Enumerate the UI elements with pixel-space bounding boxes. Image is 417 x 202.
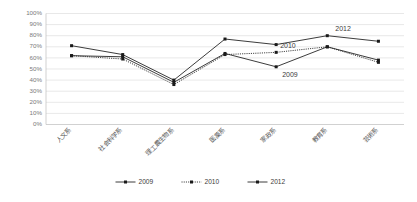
data-point-marker [121, 58, 124, 61]
x-axis-category-label: 人文系 [54, 126, 73, 145]
data-point-marker [70, 54, 73, 57]
data-point-marker [121, 53, 124, 56]
legend-label: 2009 [139, 178, 154, 185]
legend-label: 2010 [205, 178, 220, 185]
x-axis-category-labels: 人文系社会科学系理工農生物系医薬系家政系教育系芸術系 [54, 126, 380, 158]
y-axis-tick-label: 20% [30, 98, 43, 105]
data-point-marker [172, 83, 175, 86]
y-axis-tick-labels: 100%90%80%70%60%50%40%30%20%10%0% [26, 9, 42, 127]
data-point-marker [275, 65, 278, 68]
legend-item-2010: 2010 [182, 178, 220, 185]
series-lines [72, 36, 379, 85]
legend-item-2009: 2009 [116, 178, 154, 185]
data-point-marker [377, 61, 380, 64]
y-axis-tick-label: 100% [26, 9, 42, 16]
y-axis-tick-label: 50% [30, 65, 43, 72]
data-point-marker [377, 40, 380, 43]
y-axis-tick-label: 60% [30, 54, 43, 61]
chart-canvas: 100%90%80%70%60%50%40%30%20%10%0% 人文系社会科… [0, 0, 417, 202]
legend-marker-swatch [256, 181, 259, 184]
legend-marker-swatch [124, 181, 127, 184]
series-annotation-2012: 2012 [335, 25, 351, 32]
y-axis-tick-label: 10% [30, 109, 43, 116]
data-point-marker [275, 43, 278, 46]
y-axis-tick-label: 40% [30, 76, 43, 83]
y-axis-tick-label: 70% [30, 42, 43, 49]
legend-marker-swatch [190, 181, 193, 184]
x-axis-category-label: 医薬系 [207, 126, 226, 145]
y-axis-tick-label: 90% [30, 20, 43, 27]
data-point-marker [326, 45, 329, 48]
series-annotation-2010: 2010 [280, 42, 296, 49]
y-axis-tick-label: 80% [30, 31, 43, 38]
y-axis-tick-label: 0% [33, 120, 42, 127]
x-axis-category-label: 理工農生物系 [143, 126, 175, 158]
x-axis-category-label: 社会科学系 [97, 126, 125, 154]
data-point-marker [326, 34, 329, 37]
x-axis-category-label: 芸術系 [361, 126, 380, 145]
x-axis-category-label: 教育系 [310, 126, 329, 145]
series-markers [70, 34, 380, 86]
x-axis-category-label: 家政系 [258, 126, 277, 145]
chart-legend: 200920102012 [116, 178, 286, 185]
legend-label: 2012 [271, 178, 286, 185]
y-axis-tick-label: 30% [30, 87, 43, 94]
legend-item-2012: 2012 [248, 178, 286, 185]
data-point-marker [275, 51, 278, 54]
line-chart: 100%90%80%70%60%50%40%30%20%10%0% 人文系社会科… [0, 0, 417, 202]
series-annotation-2009: 2009 [282, 71, 298, 78]
data-point-marker [172, 79, 175, 82]
data-point-marker [224, 38, 227, 41]
data-point-marker [224, 53, 227, 56]
data-point-marker [70, 44, 73, 47]
